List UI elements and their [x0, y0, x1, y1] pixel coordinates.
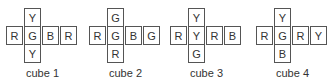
- face-row-1: G: [24, 26, 41, 45]
- face-bottom: G: [188, 44, 205, 63]
- face-row-1: G: [274, 26, 291, 45]
- face-bottom: Y: [24, 44, 41, 63]
- face-row-1: Y: [188, 26, 205, 45]
- cube-net-3: Y R Y R B G cube 3: [170, 0, 254, 84]
- face-row-0: R: [6, 26, 23, 45]
- face-row-2: R: [292, 26, 309, 45]
- cube-net-2: G R G B G R cube 2: [89, 0, 173, 84]
- face-row-3: B: [224, 26, 241, 45]
- face-row-3: Y: [310, 26, 327, 45]
- face-row-3: R: [60, 26, 77, 45]
- face-top: Y: [24, 8, 41, 27]
- face-row-2: B: [125, 26, 142, 45]
- face-top: G: [107, 8, 124, 27]
- face-row-2: R: [206, 26, 223, 45]
- cube-label: cube 4: [276, 67, 309, 79]
- face-row-0: R: [170, 26, 187, 45]
- face-row-3: G: [143, 26, 160, 45]
- face-bottom: R: [107, 44, 124, 63]
- cube-net-1: Y R G B R Y cube 1: [6, 0, 90, 84]
- cube-net-4: Y R G R Y B cube 4: [256, 0, 334, 84]
- face-row-0: R: [256, 26, 273, 45]
- face-row-0: R: [89, 26, 106, 45]
- cube-label: cube 2: [109, 67, 142, 79]
- face-row-1: G: [107, 26, 124, 45]
- face-bottom: B: [274, 44, 291, 63]
- face-row-2: B: [42, 26, 59, 45]
- cube-label: cube 1: [26, 67, 59, 79]
- cube-label: cube 3: [190, 67, 223, 79]
- face-top: Y: [274, 8, 291, 27]
- face-top: Y: [188, 8, 205, 27]
